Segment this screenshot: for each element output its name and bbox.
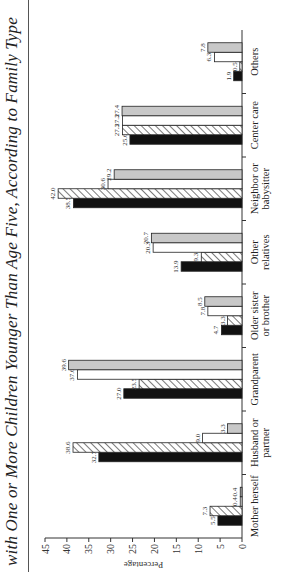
- category-label: Others: [249, 48, 260, 76]
- category-label: or brother: [260, 294, 271, 336]
- bar-value-label: 13.9: [172, 260, 180, 273]
- bar-value-label: 0.4: [231, 487, 239, 496]
- bar: [181, 262, 242, 272]
- bar: [73, 198, 242, 208]
- bar-value-label: 5.5: [209, 516, 217, 525]
- bars: 5.57.30.40.432.738.69.03.327.023.537.639…: [49, 43, 242, 526]
- bar-value-label: 7.8: [199, 43, 207, 52]
- bar: [240, 62, 242, 72]
- bar: [108, 179, 242, 189]
- bar-value-label: 0.5: [231, 62, 239, 71]
- y-tick-label: 25: [127, 544, 138, 554]
- y-tick-label: 45: [40, 544, 51, 554]
- bar-value-label: 1.9: [225, 71, 233, 80]
- bar-value-label: 42.0: [49, 187, 57, 200]
- bar-value-label: 7.8: [199, 306, 207, 315]
- bar-value-label: 3.3: [219, 424, 227, 433]
- category-label: relatives: [260, 234, 271, 270]
- category-label: Neighbor or: [249, 163, 260, 215]
- bar: [228, 424, 242, 434]
- y-tick-label: 30: [105, 544, 116, 554]
- bar-value-label: 39.6: [60, 358, 68, 371]
- bar-value-label: 8.5: [196, 297, 204, 306]
- category-label: Husband or: [249, 418, 260, 467]
- bar: [122, 125, 242, 135]
- bar-value-label: 38.6: [64, 441, 72, 454]
- y-tick-label: 35: [83, 544, 94, 554]
- bar-value-label: 27.0: [115, 387, 123, 400]
- bar-value-label: 3.3: [219, 316, 227, 325]
- bar: [151, 233, 242, 243]
- bar: [203, 433, 242, 443]
- bar: [99, 452, 242, 462]
- bar: [240, 487, 242, 497]
- bar: [124, 389, 242, 399]
- y-tick-label: 0: [237, 544, 248, 549]
- bar-chart: 051015202530354045Percentage 5.57.30.40.…: [0, 0, 288, 572]
- bar-value-label: 9.3: [192, 252, 200, 261]
- bar-value-label: 9.0: [194, 433, 202, 442]
- y-axis-label: Percentage: [124, 560, 163, 570]
- category-label: Grandparent: [249, 353, 260, 406]
- bar: [221, 325, 242, 335]
- category-label: Mother herself: [249, 475, 260, 538]
- bar: [130, 135, 242, 145]
- bar: [228, 316, 242, 326]
- bar: [208, 43, 242, 53]
- category-label: Center care: [249, 101, 260, 149]
- category-label: Other: [249, 240, 260, 264]
- bar: [122, 116, 242, 126]
- bar: [208, 306, 242, 316]
- y-tick-label: 40: [61, 544, 72, 554]
- bar: [114, 170, 242, 180]
- category-label: babysitter: [260, 168, 271, 210]
- chart-rotated-container: with One or More Children Younger Than A…: [0, 0, 288, 572]
- bar: [234, 71, 242, 81]
- bar-value-label: 6.3: [205, 52, 213, 61]
- y-tick-label: 10: [193, 544, 204, 554]
- y-tick-label: 15: [171, 544, 182, 554]
- bar: [122, 106, 242, 116]
- bar-value-label: 27.4: [113, 104, 121, 117]
- bar: [205, 297, 242, 307]
- bar: [77, 370, 242, 380]
- bar: [240, 497, 242, 507]
- category-label: Older sister: [249, 291, 260, 340]
- bar-value-label: 0.4: [231, 497, 239, 506]
- bar: [218, 516, 242, 526]
- category-label: partner: [260, 427, 271, 457]
- category-labels: Mother herselfHusband orpartnerGrandpare…: [249, 48, 271, 538]
- bar: [73, 443, 242, 453]
- bar-value-label: 4.7: [212, 325, 220, 334]
- bar: [214, 52, 242, 62]
- bar: [153, 243, 242, 253]
- bar-value-label: 7.3: [201, 506, 209, 515]
- bar-value-label: 29.2: [105, 168, 113, 181]
- y-tick-label: 20: [149, 544, 160, 554]
- y-tick-label: 5: [215, 544, 226, 549]
- bar: [69, 360, 242, 370]
- bar: [210, 506, 242, 516]
- bar: [139, 379, 242, 389]
- bar-value-label: 20.7: [142, 231, 150, 244]
- bar: [201, 252, 242, 262]
- bar: [58, 189, 242, 199]
